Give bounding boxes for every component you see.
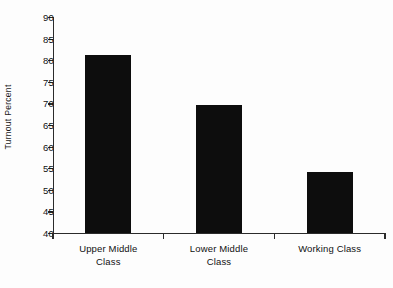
x-axis-category-label-line: Class bbox=[164, 256, 275, 269]
x-tick-mark bbox=[274, 233, 275, 239]
x-axis-category-label-line: Lower Middle bbox=[164, 243, 275, 256]
y-tick-label: 70 bbox=[10, 98, 54, 109]
x-axis-category-label-line: Working Class bbox=[274, 243, 385, 256]
x-axis-category-label-line: Upper Middle bbox=[53, 243, 164, 256]
y-axis-title-text: Turnout Percent bbox=[3, 84, 13, 149]
bar bbox=[85, 55, 131, 233]
x-tick-mark bbox=[163, 233, 164, 239]
bar bbox=[196, 105, 242, 233]
y-tick-label: 60 bbox=[10, 141, 54, 152]
y-tick-label: 40 bbox=[10, 228, 54, 239]
y-tick-label: 50 bbox=[10, 184, 54, 195]
y-tick-label: 80 bbox=[10, 55, 54, 66]
y-tick-label: 90 bbox=[10, 12, 54, 23]
x-tick-mark bbox=[52, 233, 53, 239]
y-tick-label: 75 bbox=[10, 76, 54, 87]
x-axis-category-label-line: Class bbox=[53, 256, 164, 269]
x-axis-category-label: Working Class bbox=[274, 243, 385, 256]
y-tick-label: 45 bbox=[10, 206, 54, 217]
bar-chart: Turnout Percent 9085807570656055504540 U… bbox=[0, 0, 393, 288]
bar bbox=[307, 172, 353, 233]
y-tick-label: 65 bbox=[10, 120, 54, 131]
y-tick-label: 55 bbox=[10, 163, 54, 174]
y-tick-label: 85 bbox=[10, 33, 54, 44]
x-axis-category-label: Upper MiddleClass bbox=[53, 243, 164, 268]
x-axis-category-label: Lower MiddleClass bbox=[164, 243, 275, 268]
plot-area bbox=[53, 17, 385, 233]
x-tick-mark bbox=[384, 233, 385, 239]
